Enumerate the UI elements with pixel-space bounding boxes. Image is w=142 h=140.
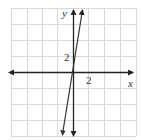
graph-line — [63, 10, 83, 131]
x-axis-label: x — [128, 78, 133, 89]
coordinate-plane — [0, 0, 142, 140]
y-axis-label: y — [62, 8, 67, 19]
y-tick-label: 2 — [64, 52, 70, 63]
x-tick-label: 2 — [86, 75, 92, 86]
